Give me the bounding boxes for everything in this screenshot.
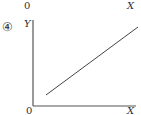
origin-label: 0 — [26, 106, 32, 115]
chart-plot — [0, 0, 141, 115]
x-axis-label: X — [127, 106, 134, 115]
data-line — [46, 27, 138, 95]
